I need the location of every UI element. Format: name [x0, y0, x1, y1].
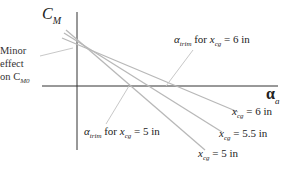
leader-minor-effect — [40, 48, 73, 56]
y-axis-label: CM — [42, 6, 61, 26]
line-label-xcg-6: xcg = 6 in — [232, 106, 272, 120]
trim-label-xcg-6: αtrim for xcg = 6 in — [174, 34, 250, 48]
leader-trim-6 — [166, 50, 193, 86]
leader-trim-5 — [106, 86, 129, 124]
minor-effect-annotation: Minor effect on CM0 — [0, 44, 29, 88]
line-label-xcg-5-5: xcg = 5.5 in — [219, 128, 267, 142]
trim-label-xcg-5: αtrim for xcg = 5 in — [84, 126, 160, 140]
x-axis-label: αa — [266, 86, 279, 106]
line-label-xcg-5: xcg = 5 in — [198, 148, 238, 162]
